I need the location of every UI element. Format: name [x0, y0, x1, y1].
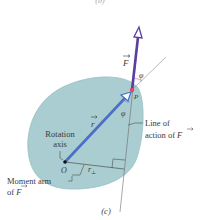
- position-label: r: [91, 119, 95, 129]
- force-vector-arrowhead: [134, 27, 142, 38]
- moment-arm-text: of: [7, 187, 14, 197]
- moment-arm-var: F: [15, 187, 22, 197]
- point-P-marker: [130, 88, 134, 92]
- line-of-action-var-arrow: [187, 128, 193, 131]
- origin-point: [63, 160, 67, 164]
- force-vector-F: [132, 37, 138, 90]
- angle-label-bottom: φ: [121, 109, 126, 118]
- origin-label: O: [61, 166, 67, 175]
- line-of-action-label-line1: Line of: [145, 118, 170, 128]
- force-label: F: [122, 58, 129, 68]
- line-of-action-var: F: [176, 130, 183, 140]
- r-extension-line: [132, 57, 166, 90]
- top-caption: (b): [95, 0, 105, 5]
- moment-arm-label-line2: of F: [7, 187, 22, 197]
- line-of-action-text: action of: [145, 130, 175, 140]
- moment-arm-label-line1: Moment arm: [7, 176, 52, 186]
- rotation-axis-label-line2: axis: [53, 139, 67, 149]
- figure-caption: (c): [101, 206, 111, 216]
- point-P-label: P: [133, 93, 139, 101]
- line-of-action-label-line2: action of F: [145, 130, 183, 140]
- angle-label-top: φ: [139, 71, 144, 80]
- torque-diagram: (b) F φ φ P r Rotatio: [0, 0, 200, 220]
- rotation-axis-label-line1: Rotation: [45, 129, 75, 139]
- perp-arm-sub: ⊥: [91, 170, 96, 175]
